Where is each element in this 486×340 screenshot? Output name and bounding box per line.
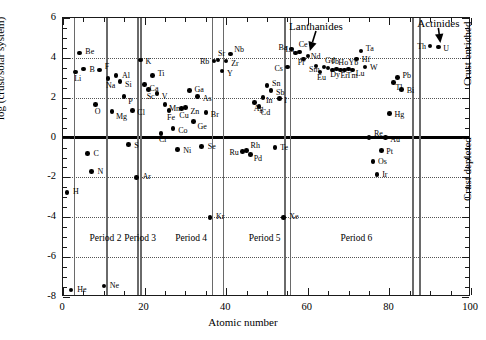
x-tick-label-20: 20 bbox=[124, 301, 164, 312]
x-tick-label-0: 0 bbox=[42, 301, 82, 312]
x-tick-label-80: 80 bbox=[368, 301, 408, 312]
x-axis-title: Atomic number bbox=[0, 316, 486, 328]
y-tick--8 bbox=[63, 297, 70, 298]
annotation-period-4: Period 4 bbox=[175, 233, 207, 243]
annotation-crust-depleted: Crust depleted bbox=[461, 137, 473, 201]
y-axis-title: log (crust/solar system) bbox=[0, 17, 6, 120]
x-tick-100 bbox=[471, 288, 472, 295]
annotation-arrow-actinides bbox=[63, 18, 471, 297]
y-tick--8 bbox=[462, 297, 469, 298]
y-tick-label--6: -6 bbox=[30, 250, 56, 261]
y-tick-label-0: 0 bbox=[30, 131, 56, 142]
x-tick-label-40: 40 bbox=[205, 301, 245, 312]
chart-figure: HHeLiBeBCNOFNeNaMgAlSiPSClArKCaScTiVCrMn… bbox=[0, 0, 486, 340]
y-tick-label-2: 2 bbox=[30, 91, 56, 102]
annotation-period-6: Period 6 bbox=[340, 233, 372, 243]
x-tick-label-100: 100 bbox=[450, 301, 486, 312]
plot-area: HHeLiBeBCNOFNeNaMgAlSiPSClArKCaScTiVCrMn… bbox=[62, 17, 470, 296]
y-tick-label--8: -8 bbox=[30, 290, 56, 301]
y-tick-label--4: -4 bbox=[30, 210, 56, 221]
y-tick-label-6: 6 bbox=[30, 11, 56, 22]
annotation-crust-enriched: Crust enriched bbox=[461, 21, 473, 85]
y-tick-label--2: -2 bbox=[30, 170, 56, 181]
y-tick-label-4: 4 bbox=[30, 51, 56, 62]
annotation-period-5: Period 5 bbox=[249, 233, 281, 243]
annotation-period-3: Period 3 bbox=[124, 233, 156, 243]
annotation-period-2: Period 2 bbox=[90, 233, 122, 243]
x-tick-label-60: 60 bbox=[287, 301, 327, 312]
